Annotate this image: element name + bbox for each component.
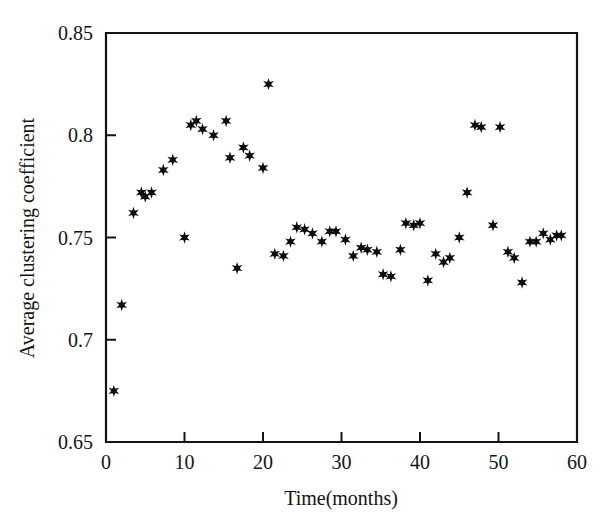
data-point-core bbox=[211, 133, 216, 138]
y-tick-label: 0.75 bbox=[58, 227, 93, 249]
data-point-core bbox=[479, 124, 484, 129]
data-point-core bbox=[224, 118, 229, 123]
data-point-core bbox=[388, 274, 393, 279]
data-point-core bbox=[381, 272, 386, 277]
x-tick-label: 0 bbox=[101, 451, 111, 473]
data-point-core bbox=[351, 253, 356, 258]
data-point-core bbox=[559, 233, 564, 238]
data-point-core bbox=[260, 165, 265, 170]
data-point-core bbox=[266, 82, 271, 87]
data-point-core bbox=[194, 118, 199, 123]
x-tick-label: 10 bbox=[175, 451, 195, 473]
data-point-core bbox=[359, 245, 364, 250]
data-point-core bbox=[447, 255, 452, 260]
data-point-core bbox=[403, 221, 408, 226]
y-tick-label: 0.8 bbox=[68, 124, 93, 146]
chart-figure: 0.650.70.750.80.85 0102030405060 Time(mo… bbox=[0, 0, 609, 524]
data-point-core bbox=[505, 249, 510, 254]
data-point-core bbox=[541, 231, 546, 236]
x-tick-label: 40 bbox=[410, 451, 430, 473]
data-point-core bbox=[472, 122, 477, 127]
data-point-core bbox=[227, 155, 232, 160]
x-tick-label: 20 bbox=[253, 451, 273, 473]
data-point-core bbox=[302, 227, 307, 232]
data-point-core bbox=[425, 278, 430, 283]
data-point-core bbox=[534, 239, 539, 244]
data-point-core bbox=[294, 225, 299, 230]
y-tick-label: 0.85 bbox=[58, 22, 93, 44]
data-point-core bbox=[333, 229, 338, 234]
data-point-core bbox=[111, 388, 116, 393]
data-point-core bbox=[411, 223, 416, 228]
data-point-core bbox=[465, 190, 470, 195]
data-point-core bbox=[234, 266, 239, 271]
x-tick-label: 60 bbox=[567, 451, 587, 473]
data-point-core bbox=[119, 302, 124, 307]
data-point-core bbox=[417, 221, 422, 226]
scatter-plot-svg: 0.650.70.750.80.85 0102030405060 Time(mo… bbox=[0, 0, 609, 524]
data-point-core bbox=[319, 239, 324, 244]
data-point-core bbox=[272, 251, 277, 256]
data-point-core bbox=[365, 247, 370, 252]
data-points-group bbox=[108, 78, 566, 397]
data-point-core bbox=[161, 167, 166, 172]
data-point-core bbox=[281, 253, 286, 258]
y-tick-label: 0.7 bbox=[68, 329, 93, 351]
data-point-core bbox=[490, 223, 495, 228]
x-tick-label: 30 bbox=[332, 451, 352, 473]
data-point-core bbox=[149, 190, 154, 195]
data-point-core bbox=[247, 153, 252, 158]
data-point-core bbox=[433, 251, 438, 256]
data-point-core bbox=[200, 127, 205, 132]
data-point-core bbox=[497, 124, 502, 129]
data-point-core bbox=[343, 237, 348, 242]
data-point-core bbox=[512, 255, 517, 260]
data-point-core bbox=[398, 247, 403, 252]
data-point-core bbox=[288, 239, 293, 244]
data-point-core bbox=[457, 235, 462, 240]
data-point-core bbox=[131, 210, 136, 215]
data-point-core bbox=[327, 229, 332, 234]
y-axis-ticks: 0.650.70.750.80.85 bbox=[58, 22, 116, 453]
data-point-core bbox=[519, 280, 524, 285]
data-point-core bbox=[527, 239, 532, 244]
data-point-core bbox=[310, 231, 315, 236]
data-point-core bbox=[170, 157, 175, 162]
x-tick-label: 50 bbox=[489, 451, 509, 473]
x-axis-title: Time(months) bbox=[284, 487, 398, 510]
x-axis-ticks: 0102030405060 bbox=[101, 432, 587, 473]
data-point-core bbox=[182, 235, 187, 240]
y-axis-title: Average clustering coefficient bbox=[16, 117, 39, 358]
data-point-core bbox=[374, 249, 379, 254]
data-point-core bbox=[241, 145, 246, 150]
y-tick-label: 0.65 bbox=[58, 431, 93, 453]
